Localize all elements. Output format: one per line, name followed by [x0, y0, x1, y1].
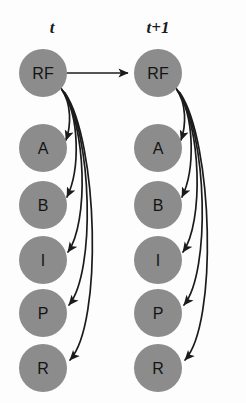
- slice-label-t-plus-1: t+1: [147, 18, 170, 37]
- node-label-tp1-r: R: [152, 360, 164, 377]
- slice-t-plus-1-group: t+1 RF A B: [134, 18, 207, 392]
- slice-label-t: t: [50, 18, 56, 37]
- node-tp1-i[interactable]: I: [134, 236, 182, 284]
- node-tp1-b[interactable]: B: [134, 181, 182, 229]
- slice-t-group: t RF A B: [19, 18, 92, 392]
- node-label-t-b: B: [38, 197, 49, 214]
- node-label-tp1-p: P: [153, 305, 164, 322]
- node-label-t-a: A: [38, 140, 49, 157]
- node-t-rf[interactable]: RF: [19, 49, 67, 97]
- node-t-a[interactable]: A: [19, 124, 67, 172]
- network-diagram-canvas: t RF A B: [0, 0, 246, 403]
- node-label-t-p: P: [38, 305, 49, 322]
- node-tp1-rf[interactable]: RF: [134, 49, 182, 97]
- node-label-tp1-a: A: [153, 140, 164, 157]
- node-t-p[interactable]: P: [19, 289, 67, 337]
- node-t-r[interactable]: R: [19, 344, 67, 392]
- node-tp1-r[interactable]: R: [134, 344, 182, 392]
- node-label-tp1-b: B: [153, 197, 164, 214]
- node-t-b[interactable]: B: [19, 181, 67, 229]
- node-label-tp1-rf: RF: [147, 65, 169, 82]
- node-tp1-p[interactable]: P: [134, 289, 182, 337]
- node-tp1-a[interactable]: A: [134, 124, 182, 172]
- node-label-t-i: I: [41, 252, 45, 269]
- node-label-t-rf: RF: [32, 65, 54, 82]
- node-label-t-r: R: [37, 360, 49, 377]
- node-label-tp1-i: I: [156, 252, 160, 269]
- node-t-i[interactable]: I: [19, 236, 67, 284]
- diagram-root: t RF A B: [0, 0, 246, 403]
